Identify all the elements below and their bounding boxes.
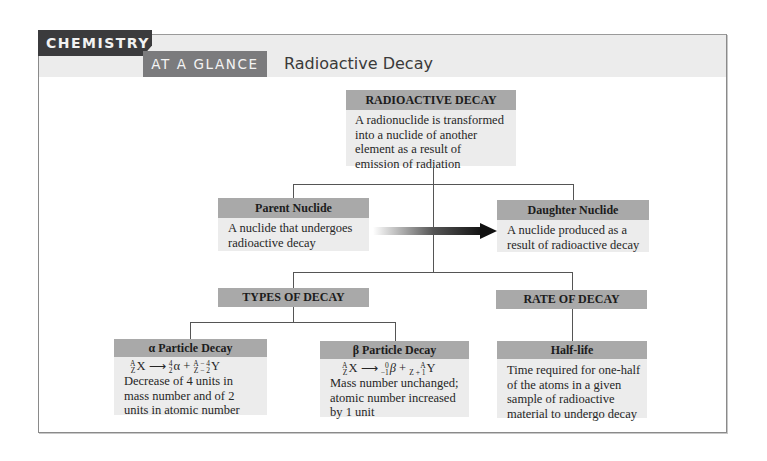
connector (293, 272, 294, 288)
reaction-arrow-icon: ⟶ (149, 359, 166, 373)
connector (293, 307, 294, 322)
alpha-decay-node: α Particle Decay AZX ⟶ 42α + A − 4Z − 2Y… (114, 339, 267, 415)
types-of-decay-node: TYPES OF DECAY (218, 288, 369, 307)
alpha-decay-body: AZX ⟶ 42α + A − 4Z − 2Y Decrease of 4 un… (114, 357, 267, 415)
connector (572, 272, 573, 290)
connector (573, 184, 574, 200)
connector (395, 322, 396, 341)
beta-decay-node: β Particle Decay AZX ⟶ 0−1β + AZ + 1Y Ma… (320, 341, 469, 417)
chemistry-tab: CHEMISTRY (38, 30, 152, 56)
connector (293, 184, 574, 185)
root-node-title: RADIOACTIVE DECAY (346, 90, 516, 110)
beta-decay-text: Mass number unchanged; atomic number inc… (330, 376, 461, 420)
connector (293, 272, 573, 273)
alpha-equation: AZX ⟶ 42α + A − 4Z − 2Y (124, 358, 259, 374)
alpha-decay-title: α Particle Decay (114, 339, 267, 357)
half-life-text: Time required for one-half of the atoms … (497, 359, 647, 418)
beta-equation: AZX ⟶ 0−1β + AZ + 1Y (330, 360, 461, 376)
beta-decay-body: AZX ⟶ 0−1β + AZ + 1Y Mass number unchang… (320, 359, 469, 417)
parent-nuclide-text: A nuclide that undergoes radioactive dec… (218, 218, 369, 251)
connector (293, 184, 294, 198)
decay-arrow-icon (373, 222, 497, 240)
root-node: RADIOACTIVE DECAY A radionuclide is tran… (346, 90, 516, 166)
reaction-arrow-icon: ⟶ (361, 361, 378, 375)
beta-decay-title: β Particle Decay (320, 341, 469, 359)
connector (572, 309, 573, 341)
daughter-nuclide-text: A nuclide produced as a result of radioa… (497, 220, 649, 252)
parent-nuclide-node: Parent Nuclide A nuclide that undergoes … (218, 198, 369, 251)
connector (190, 322, 396, 323)
daughter-nuclide-node: Daughter Nuclide A nuclide produced as a… (497, 200, 649, 252)
rate-of-decay-node: RATE OF DECAY (496, 290, 647, 309)
page-title: Radioactive Decay (284, 52, 433, 76)
root-node-text: A radionuclide is transformed into a nuc… (346, 110, 516, 166)
half-life-title: Half-life (497, 341, 647, 359)
daughter-nuclide-title: Daughter Nuclide (497, 200, 649, 220)
connector (190, 322, 191, 339)
alpha-decay-text: Decrease of 4 units in mass number and o… (124, 374, 259, 418)
connector (433, 166, 434, 272)
at-a-glance-tab: AT A GLANCE (143, 51, 267, 77)
parent-nuclide-title: Parent Nuclide (218, 198, 369, 218)
half-life-node: Half-life Time required for one-half of … (497, 341, 647, 418)
